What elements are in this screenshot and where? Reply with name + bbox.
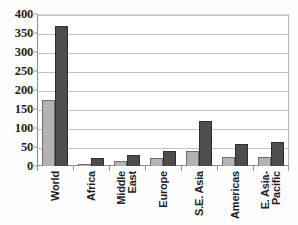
bar-group xyxy=(186,14,212,166)
bar-group xyxy=(222,14,248,166)
bars-layer xyxy=(37,14,289,166)
x-axis-category-label-line: S.E. Asia xyxy=(194,171,205,216)
y-axis-tick-mark xyxy=(31,128,37,129)
y-axis-tick-label: 300 xyxy=(0,46,33,59)
bar xyxy=(271,142,284,166)
bar-group xyxy=(258,14,284,166)
bar xyxy=(55,26,68,166)
y-axis-tick-label: 150 xyxy=(0,103,33,116)
x-axis-category-label: S.E. Asia xyxy=(181,171,217,225)
x-axis-category-label: MiddleEast xyxy=(109,171,145,225)
y-axis-tick-label: 0 xyxy=(0,160,33,173)
y-axis-tick-mark xyxy=(31,166,37,167)
bar-group xyxy=(78,14,104,166)
x-axis-category-label: Americas xyxy=(217,171,253,225)
bar xyxy=(42,100,55,167)
y-axis-tick-label: 400 xyxy=(0,8,33,21)
bar xyxy=(186,151,199,166)
bar xyxy=(91,158,104,166)
bar xyxy=(163,151,176,166)
y-axis-tick-label: 350 xyxy=(0,27,33,40)
x-axis-category-label-line: East xyxy=(127,171,138,193)
bar-group xyxy=(114,14,140,166)
bar xyxy=(199,121,212,166)
y-axis-tick-mark xyxy=(31,33,37,34)
y-axis-tick-label: 200 xyxy=(0,84,33,97)
bar-group xyxy=(42,14,68,166)
x-axis-category-label-line: Americas xyxy=(230,171,241,219)
bar xyxy=(235,144,248,166)
y-axis-tick-label: 50 xyxy=(0,141,33,154)
bar xyxy=(127,155,140,166)
x-axis-labels: WorldAfricaMiddleEastEuropeS.E. AsiaAmer… xyxy=(37,171,289,225)
y-axis-tick-mark xyxy=(31,71,37,72)
bar xyxy=(258,157,271,167)
y-axis-tick-mark xyxy=(31,14,37,15)
x-axis-category-label: World xyxy=(37,171,73,225)
y-axis-tick-label: 250 xyxy=(0,65,33,78)
x-axis-category-label-line: Europe xyxy=(158,171,169,208)
y-axis-tick-mark xyxy=(31,52,37,53)
x-axis-category-label-line: Africa xyxy=(86,171,97,201)
y-axis-tick-mark xyxy=(31,90,37,91)
x-axis-category-label: E. Asia-Pacific xyxy=(253,171,289,225)
bar-chart: 050100150200250300350400 WorldAfricaMidd… xyxy=(0,0,298,225)
x-axis-category-label: Africa xyxy=(73,171,109,225)
y-axis-tick-label: 100 xyxy=(0,122,33,135)
x-axis-category-label-line: Pacific xyxy=(271,171,282,205)
x-axis-category-label-line: World xyxy=(50,171,61,201)
bar-group xyxy=(150,14,176,166)
y-axis-tick-mark xyxy=(31,147,37,148)
bar xyxy=(222,157,235,167)
y-axis-labels: 050100150200250300350400 xyxy=(0,0,33,225)
x-axis-category-label: Europe xyxy=(145,171,181,225)
y-axis-tick-mark xyxy=(31,109,37,110)
bar xyxy=(150,158,163,166)
